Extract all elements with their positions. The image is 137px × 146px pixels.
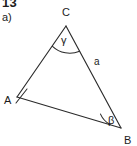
problem-number: 13 [2,0,17,10]
angle-label-beta: β [108,114,114,126]
triangle-side-a [66,26,121,128]
side-label-a: a [94,56,100,67]
triangle-side-c [17,97,121,128]
angle-label-gamma: γ [61,34,67,46]
triangle-side-b [17,26,66,97]
vertex-label-a: A [4,94,12,106]
geometry-figure-container: 13 a) C A B a γ β [0,0,137,146]
triangle-diagram: 13 a) C A B a γ β [0,0,137,146]
vertex-label-c: C [62,6,70,18]
angle-arc-gamma [53,46,80,53]
part-label: a) [2,11,12,23]
vertex-label-b: B [124,134,131,146]
